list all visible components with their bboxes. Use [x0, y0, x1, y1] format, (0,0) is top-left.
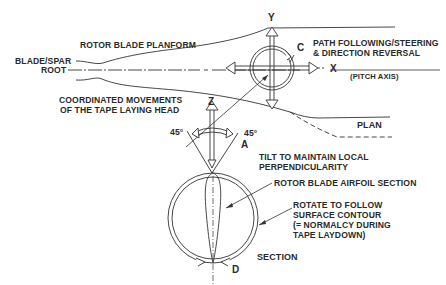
- label-plan: PLAN: [357, 120, 382, 130]
- axis-z-label: Z: [208, 97, 214, 107]
- leader-airfoil: [226, 183, 272, 208]
- label-path-following-2: & DIRECTION REVERSAL: [313, 48, 420, 58]
- axis-a-label: A: [241, 140, 248, 150]
- axis-c-label: C: [297, 43, 304, 53]
- axis-d-label: D: [232, 265, 239, 275]
- label-rotate-4: TAPE LAYDOWN): [293, 230, 365, 240]
- axis-y-label: Y: [268, 13, 275, 23]
- label-rotate-1: ROTATE TO FOLLOW: [293, 200, 382, 210]
- label-rotate-3: (= NORMALCY DURING: [293, 220, 391, 230]
- label-rotate-2: SURFACE CONTOUR: [293, 210, 381, 220]
- label-coordinated-1: COORDINATED MOVEMENTS: [59, 95, 182, 105]
- angle-left-label: 45°: [170, 127, 183, 137]
- label-root: ROOT: [41, 65, 66, 75]
- label-coordinated-2: OF THE TAPE LAYING HEAD: [60, 105, 179, 115]
- label-section: SECTION: [257, 252, 298, 262]
- label-path-following-1: PATH FOLLOWING/STEERING: [313, 38, 439, 48]
- angle-right-label: 45°: [244, 128, 257, 138]
- axis-x-label: X: [330, 64, 337, 74]
- label-airfoil-section: ROTOR BLADE AIRFOIL SECTION: [274, 178, 416, 188]
- label-pitch-axis: (PITCH AXIS): [350, 72, 399, 82]
- label-tilt-2: PERPENDICULARITY: [259, 162, 348, 172]
- head-plan-circle: [226, 27, 326, 109]
- section-circle: [168, 173, 258, 285]
- tilt-head: [187, 101, 238, 173]
- label-tilt-1: TILT TO MAINTAIN LOCAL: [259, 152, 369, 162]
- label-rotor-blade-planform: ROTOR BLADE PLANFORM: [80, 40, 196, 50]
